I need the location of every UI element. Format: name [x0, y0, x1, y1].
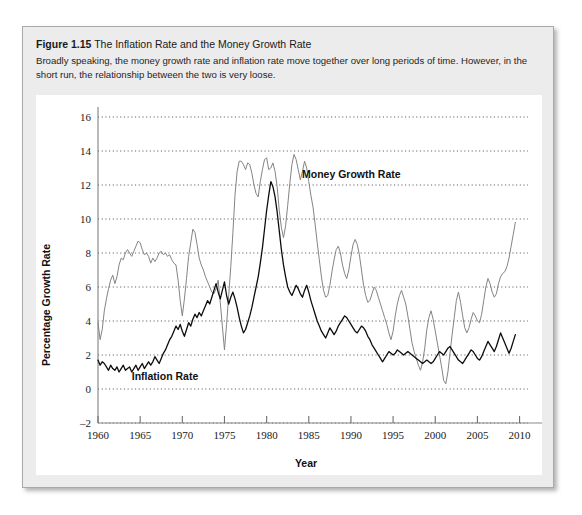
figure-description: Broadly speaking, the money growth rate …: [36, 54, 528, 81]
x-tick-label: 1980: [256, 429, 278, 441]
figure-caption: Figure 1.15 The Inflation Rate and the M…: [36, 37, 536, 81]
tick-marks: [98, 416, 520, 423]
y-tick-label: 8: [86, 247, 92, 259]
y-tick-label: 14: [80, 145, 92, 157]
y-tick-label: –2: [79, 417, 91, 429]
y-tick-label: 16: [80, 111, 92, 123]
figure-number: Figure 1.15: [36, 38, 91, 50]
figure-title: The Inflation Rate and the Money Growth …: [94, 38, 311, 50]
x-tick-label: 2010: [509, 429, 531, 441]
x-tick-labels: 1960196519701975198019851990199520002005…: [87, 429, 531, 441]
x-tick-label: 1985: [298, 429, 321, 441]
x-tick-label: 2000: [424, 429, 447, 441]
annotation-label: Money Growth Rate: [302, 168, 401, 180]
x-tick-label: 2005: [466, 429, 489, 441]
x-tick-label: 1960: [87, 429, 110, 441]
series-annotations: Money Growth RateInflation Rate: [132, 168, 401, 381]
y-tick-label: 6: [86, 281, 92, 293]
series-line-money-growth-rate: [98, 154, 515, 384]
y-axis-title: Percentage Growth Rate: [40, 244, 52, 366]
annotation-label: Inflation Rate: [132, 370, 199, 382]
y-tick-label: 12: [80, 179, 91, 191]
chart-canvas: –20246810121416 196019651970197519801985…: [36, 95, 542, 475]
y-tick-label: 4: [86, 315, 92, 327]
x-tick-label: 1990: [340, 429, 363, 441]
x-tick-label: 1975: [213, 429, 236, 441]
y-tick-label: 10: [80, 213, 92, 225]
y-tick-labels: –20246810121416: [79, 111, 92, 429]
line-chart: –20246810121416 196019651970197519801985…: [36, 95, 542, 475]
series-line-inflation-rate: [98, 182, 515, 372]
figure-title-line: Figure 1.15 The Inflation Rate and the M…: [36, 37, 536, 51]
x-axis-title: Year: [295, 457, 317, 469]
x-tick-label: 1995: [382, 429, 405, 441]
y-tick-label: 0: [86, 383, 92, 395]
x-tick-label: 1970: [171, 429, 194, 441]
figure-panel: Figure 1.15 The Inflation Rate and the M…: [22, 26, 554, 488]
y-tick-label: 2: [86, 349, 92, 361]
data-series: [98, 154, 515, 384]
x-tick-label: 1965: [129, 429, 152, 441]
